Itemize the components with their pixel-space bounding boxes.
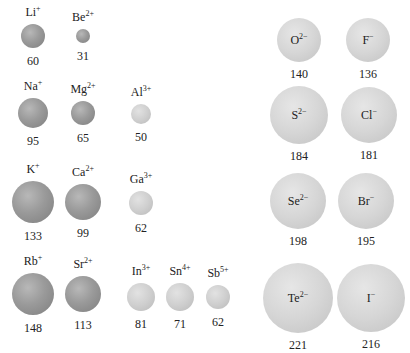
ion-charge: 5+ — [220, 265, 229, 274]
ion-charge: 3+ — [144, 171, 153, 180]
ion-radius-value: 50 — [135, 130, 147, 145]
ion-charge: 2+ — [84, 256, 93, 265]
ion-sphere — [65, 184, 101, 220]
ion-sphere — [65, 276, 101, 312]
ion-label: Sr2+ — [73, 257, 92, 272]
ion-label: Se2− — [288, 194, 309, 209]
ion-sphere — [18, 98, 48, 128]
ion-label: F− — [362, 33, 373, 48]
ion-radius-value: 65 — [77, 131, 89, 146]
ion-charge: 2+ — [85, 164, 94, 173]
ion-sphere — [12, 273, 54, 315]
ion-label: Sb5+ — [207, 266, 228, 281]
ion-label: Cl− — [361, 108, 377, 123]
ion-label: O2− — [290, 33, 307, 48]
ion-label: K+ — [26, 162, 39, 177]
ion-label: S2− — [291, 108, 306, 123]
ion-radius-value: 136 — [359, 67, 377, 82]
ion-symbol: Br — [358, 194, 370, 208]
ion-charge: + — [38, 253, 43, 262]
ion-label: Br− — [358, 194, 375, 209]
ion-radius-value: 148 — [24, 321, 42, 336]
ion-charge: 2− — [300, 193, 309, 202]
ion-symbol: F — [362, 33, 369, 47]
ion-symbol: Mg — [70, 82, 87, 96]
ion-sphere — [129, 191, 153, 215]
ion-charge: + — [38, 78, 43, 87]
ion-charge: 3+ — [142, 263, 151, 272]
ion-symbol: Rb — [24, 254, 38, 268]
ion-radius-value: 31 — [77, 49, 89, 64]
ion-symbol: K — [26, 162, 35, 176]
ion-symbol: Sr — [73, 257, 84, 271]
ion-label: In3+ — [132, 264, 151, 279]
ion-radius-value: 62 — [212, 315, 224, 330]
ion-label: Be2+ — [72, 10, 94, 25]
ion-radius-value: 113 — [74, 318, 92, 333]
ion-symbol: Sn — [169, 264, 182, 278]
ion-symbol: In — [132, 264, 142, 278]
ion-sphere — [21, 24, 45, 48]
ion-symbol: Na — [24, 79, 38, 93]
ion-symbol: Ga — [130, 172, 144, 186]
ion-radius-value: 198 — [289, 234, 307, 249]
ion-symbol: Li — [25, 5, 36, 19]
ion-charge: 4+ — [182, 263, 191, 272]
ion-radius-value: 221 — [289, 338, 307, 353]
ion-label: Ca2+ — [72, 165, 94, 180]
ion-sphere — [127, 283, 155, 311]
ion-label: Rb+ — [24, 254, 43, 269]
ion-charge: − — [369, 32, 374, 41]
ion-charge: 2− — [298, 107, 307, 116]
ion-radius-value: 95 — [27, 134, 39, 149]
ion-charge: + — [36, 4, 41, 13]
ion-label: I− — [367, 291, 376, 306]
ion-radius-value: 81 — [135, 317, 147, 332]
ion-radius-value: 133 — [24, 229, 42, 244]
ion-label: Mg2+ — [70, 82, 95, 97]
ion-charge: 2+ — [85, 9, 94, 18]
ion-charge: + — [35, 161, 40, 170]
ion-radius-value: 195 — [357, 234, 375, 249]
ion-charge: 2− — [300, 290, 309, 299]
ion-radius-value: 71 — [174, 317, 186, 332]
ion-symbol: Sb — [207, 266, 220, 280]
ion-sphere — [131, 104, 151, 124]
ion-label: Al3+ — [131, 85, 152, 100]
ion-label: Na+ — [24, 79, 43, 94]
ion-sphere — [76, 29, 90, 43]
ion-charge: − — [370, 193, 375, 202]
ion-label: Te2− — [288, 291, 308, 306]
ion-charge: 2− — [299, 32, 308, 41]
ion-symbol: S — [291, 108, 298, 122]
ion-symbol: O — [290, 33, 299, 47]
ion-label: Ga3+ — [130, 172, 153, 187]
ion-charge: − — [371, 290, 376, 299]
ion-radius-value: 216 — [362, 337, 380, 352]
ion-symbol: Al — [131, 85, 143, 99]
ion-sphere — [206, 285, 230, 309]
ion-radius-value: 99 — [77, 226, 89, 241]
ion-charge: − — [372, 107, 377, 116]
ion-radius-value: 60 — [27, 54, 39, 69]
ion-charge: 3+ — [143, 84, 152, 93]
ion-radius-value: 181 — [360, 148, 378, 163]
ion-symbol: Se — [288, 194, 300, 208]
ion-symbol: Cl — [361, 108, 372, 122]
ion-symbol: Te — [288, 291, 300, 305]
ion-symbol: Be — [72, 10, 85, 24]
ion-radius-value: 62 — [135, 221, 147, 236]
ion-radius-value: 140 — [290, 67, 308, 82]
ion-radius-value: 184 — [290, 149, 308, 164]
ion-sphere — [12, 181, 54, 223]
ion-symbol: Ca — [72, 165, 85, 179]
ion-sphere — [71, 101, 95, 125]
ion-charge: 2+ — [87, 81, 96, 90]
ion-label: Sn4+ — [169, 264, 190, 279]
ion-label: Li+ — [25, 5, 40, 20]
ion-sphere — [166, 283, 194, 311]
